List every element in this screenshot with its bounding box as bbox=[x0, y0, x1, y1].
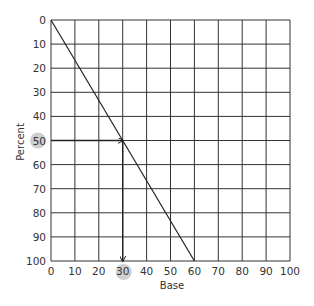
x-tick-label: 60 bbox=[188, 265, 201, 277]
y-tick-label: 50 bbox=[33, 135, 46, 147]
y-tick-label: 100 bbox=[26, 255, 46, 267]
y-axis-label: Percent bbox=[15, 123, 26, 161]
x-tick-label: 90 bbox=[259, 265, 272, 277]
x-tick-label: 20 bbox=[92, 265, 105, 277]
y-tick-label: 80 bbox=[33, 207, 46, 219]
x-axis-label: Base bbox=[160, 280, 184, 291]
y-tick-label: 0 bbox=[39, 14, 46, 26]
x-tick-label: 50 bbox=[164, 265, 177, 277]
x-tick-label: 80 bbox=[236, 265, 249, 277]
x-tick-label: 30 bbox=[116, 265, 129, 277]
y-tick-label: 90 bbox=[33, 231, 46, 243]
chart: 0102030405060708090100010203040506070809… bbox=[0, 0, 314, 306]
x-tick-label: 100 bbox=[280, 265, 300, 277]
y-tick-label: 10 bbox=[33, 38, 46, 50]
x-tick-label: 0 bbox=[48, 265, 55, 277]
tick-labels: 0102030405060708090100010203040506070809… bbox=[26, 14, 300, 280]
y-tick-label: 70 bbox=[33, 183, 46, 195]
y-tick-label: 30 bbox=[33, 86, 46, 98]
y-tick-label: 20 bbox=[33, 62, 46, 74]
x-tick-label: 10 bbox=[68, 265, 81, 277]
x-tick-label: 70 bbox=[212, 265, 225, 277]
x-tick-label: 40 bbox=[140, 265, 153, 277]
y-tick-label: 40 bbox=[33, 110, 46, 122]
y-tick-label: 60 bbox=[33, 159, 46, 171]
